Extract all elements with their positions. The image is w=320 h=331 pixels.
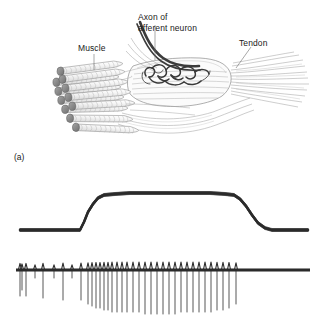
stretch-tension-trace [20, 192, 308, 232]
figure-root: Muscle Axon of afferent neuron Tendon (a… [0, 0, 320, 331]
label-tendon: Tendon [239, 38, 268, 49]
recording-traces-svg [0, 170, 320, 331]
stretch-trace-stroke [20, 193, 308, 230]
panel-tag-a: (a) [14, 152, 24, 162]
afferent-spike-train-trace [16, 262, 310, 314]
label-axon-line2: afferent neuron [138, 23, 197, 34]
leader-tendon [236, 47, 251, 68]
label-muscle: Muscle [78, 43, 106, 54]
lower-fascicle-fine [121, 115, 214, 129]
extrafusal-fiber-bundle [53, 60, 139, 138]
stretch-trace-stroke [20, 192, 308, 229]
stretch-trace-stroke [20, 194, 308, 231]
label-axon-of-afferent-neuron: Axon of afferent neuron [138, 12, 197, 33]
panel-a-muscle-spindle-diagram: Muscle Axon of afferent neuron Tendon (a… [0, 0, 320, 170]
stretch-trace-stroke [20, 192, 308, 229]
panel-b-recording-traces: (b) [0, 170, 320, 331]
label-axon-line1: Axon of [138, 12, 197, 23]
